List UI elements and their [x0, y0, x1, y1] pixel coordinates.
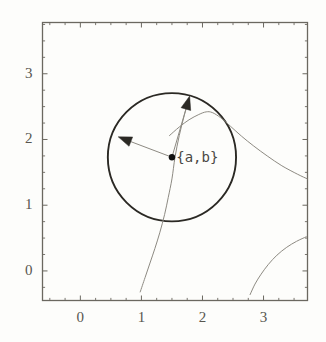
- plot-frame: [43, 23, 308, 301]
- y-tick-label: 2: [11, 130, 33, 147]
- y-tick-label: 0: [11, 262, 33, 279]
- y-tick-label: 3: [11, 65, 33, 82]
- plot-canvas: 01230123{a,b}: [0, 0, 326, 342]
- center-point: [169, 154, 175, 160]
- x-tick-label: 0: [60, 309, 100, 326]
- arrow-shaft-tangent-arrow: [129, 141, 172, 157]
- data-layer: [108, 93, 308, 294]
- x-tick-label: 1: [121, 309, 161, 326]
- x-tick-label: 2: [182, 309, 222, 326]
- arrow-head-gradient-arrow: [181, 96, 191, 110]
- x-tick-label: 3: [244, 309, 284, 326]
- arrow-head-tangent-arrow: [118, 137, 132, 146]
- plot-graphics: [0, 0, 326, 342]
- y-tick-label: 1: [11, 196, 33, 213]
- series-contour-lower-right: [250, 237, 306, 295]
- point-annotation-label: {a,b}: [176, 149, 218, 165]
- series-contour-upper: [170, 112, 308, 179]
- series-gradient-line: [140, 99, 189, 292]
